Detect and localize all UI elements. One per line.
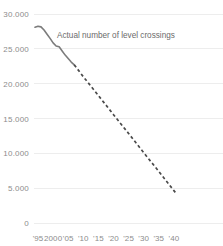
x-axis-tick-label: 2000	[44, 234, 63, 243]
x-axis-tick-label: '20	[108, 234, 119, 243]
y-axis-tick-labels: 05.00010.00015.00020.00025.00030.000	[3, 10, 29, 228]
y-axis-tick-label: 10.000	[3, 149, 29, 158]
chart-annotations: Actual number of level crossings	[57, 31, 175, 40]
projection-data-line	[74, 65, 177, 195]
y-axis-tick-label: 0	[24, 219, 29, 228]
x-axis-tick-label: '95	[33, 234, 44, 243]
x-axis-tick-label: '05	[63, 234, 74, 243]
x-axis-tick-label: '40	[169, 234, 180, 243]
annotation-label: Actual number of level crossings	[57, 31, 175, 40]
y-axis-tick-label: 25.000	[3, 45, 29, 54]
x-axis-tick-label: '10	[78, 234, 89, 243]
line-chart: 05.00010.00015.00020.00025.00030.000 '95…	[0, 0, 223, 246]
y-axis-tick-label: 5.000	[8, 184, 29, 193]
x-axis-tick-label: '15	[93, 234, 104, 243]
x-axis-tick-label: '35	[153, 234, 164, 243]
y-axis-tick-label: 15.000	[3, 115, 29, 124]
chart-container: 05.00010.00015.00020.00025.00030.000 '95…	[0, 0, 223, 246]
y-axis-tick-label: 30.000	[3, 10, 29, 19]
x-axis-tick-labels: '952000'05'10'15'20'25'30'35'40	[33, 234, 180, 243]
y-axis-tick-label: 20.000	[3, 80, 29, 89]
x-axis-tick-label: '25	[123, 234, 134, 243]
x-axis-tick-label: '30	[138, 234, 149, 243]
gridlines	[34, 14, 223, 223]
